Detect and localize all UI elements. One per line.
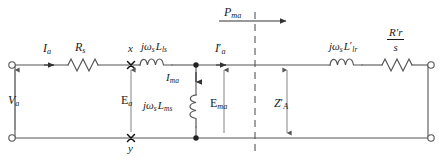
label-terminal-voltage: Va xyxy=(8,94,20,106)
fraction-numerator: R′r xyxy=(387,27,404,39)
stator-leakage-inductor-symbol xyxy=(140,59,172,65)
rotor-leakage-inductor-symbol xyxy=(330,59,362,65)
label-air-gap-power: Pma xyxy=(224,6,242,18)
junction-dot-bottom xyxy=(193,135,198,140)
label-stator-leakage-reactance: jωs Lls xyxy=(141,41,167,52)
label-node-y: y xyxy=(128,143,133,154)
terminal-bottom-right xyxy=(428,135,434,141)
terminal-bottom-left xyxy=(9,135,15,141)
stator-resistor-symbol xyxy=(68,59,98,71)
label-rotor-current: I′a xyxy=(215,42,226,54)
label-stator-resistance: Rs xyxy=(75,41,86,53)
terminal-top-left xyxy=(9,62,15,68)
magnetizing-inductor-symbol xyxy=(190,95,196,127)
junction-dot-top xyxy=(193,62,198,67)
fraction-denominator: s xyxy=(387,41,404,53)
fraction-bar xyxy=(387,39,404,40)
label-rotor-leakage-reactance: jωs L′lr xyxy=(329,41,357,52)
terminal-top-right xyxy=(428,62,434,68)
rotor-resistor-symbol xyxy=(382,59,412,71)
label-rotor-resistance-over-slip: R′r s xyxy=(387,27,404,53)
circuit-schematic-canvas xyxy=(0,0,446,161)
label-node-x: x xyxy=(128,43,133,54)
label-stator-current: Ia xyxy=(43,42,51,54)
circuit-diagram: Ia Rs x y jωs Lls Pma I′a jωs L′lr R′r s… xyxy=(0,0,446,161)
label-magnetizing-emf: Ema xyxy=(210,97,228,109)
label-rotor-impedance: Z′A xyxy=(274,97,288,109)
label-air-gap-emf: Ea xyxy=(121,94,133,106)
label-magnetizing-current: Ima xyxy=(166,72,179,83)
label-magnetizing-reactance: jωs Lms xyxy=(143,100,172,111)
